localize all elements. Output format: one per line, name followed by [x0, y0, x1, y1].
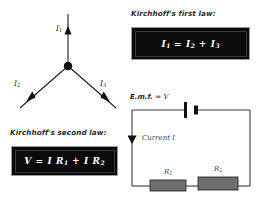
series-circuit-diagram: E.m.f. = V Current I R1 R2	[128, 88, 256, 200]
battery-short-plate-icon	[194, 106, 198, 115]
emf-label-group: E.m.f. = V	[130, 93, 169, 101]
junction-svg	[12, 8, 124, 113]
branch-right-wire	[68, 66, 116, 108]
first-law-box-inner: I1 = I2 + I3	[135, 31, 247, 57]
second-law-heading: Kirchhoff's second law:	[10, 128, 107, 137]
current-label: Current I	[142, 134, 175, 142]
diagram-canvas: I1 I2 I3 Kirchhoff's first law: I1 = I2 …	[0, 0, 257, 200]
label-current-i1: I1	[56, 24, 62, 33]
junction-node-dot	[64, 62, 72, 70]
first-law-formula-box: I1 = I2 + I3	[131, 27, 250, 60]
label-current-i3: I3	[100, 79, 106, 88]
resistor-2-label: R2	[214, 165, 222, 173]
label-current-i2: I2	[14, 79, 20, 88]
resistor-1-body	[150, 180, 186, 191]
branch-left-wire	[20, 66, 68, 108]
arrow-current-direction	[128, 136, 137, 145]
second-law-box-inner: V = I R1 + I R2	[15, 150, 115, 173]
resistor-1-label: R1	[164, 168, 172, 176]
battery-long-plate-icon	[184, 102, 187, 118]
arrow-top-current	[64, 26, 71, 35]
first-law-formula: I1 = I2 + I3	[161, 39, 219, 49]
arrow-left-current	[26, 92, 36, 102]
resistor-2-body	[198, 177, 238, 190]
first-law-heading: Kirchhoff's first law:	[131, 9, 216, 18]
current-junction-diagram: I1 I2 I3	[12, 8, 124, 113]
second-law-formula-box: V = I R1 + I R2	[11, 146, 118, 176]
second-law-formula: V = I R1 + I R2	[24, 156, 104, 166]
arrow-right-current	[100, 92, 110, 102]
circuit-svg	[128, 88, 256, 200]
